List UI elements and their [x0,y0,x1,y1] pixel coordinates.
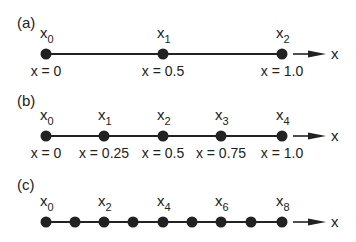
node-value: x = 0.5 [142,63,185,79]
grid-refinement-diagram: (a)xx0x = 0x1x = 0.5x2x = 1.0(b)xx0x = 0… [0,0,356,242]
node-dot-icon [70,217,81,228]
node-dot-icon [216,131,227,142]
node-label: x0 [40,192,54,213]
node-dot-icon [158,49,169,60]
arrow-head-icon [308,51,326,58]
grid-node [187,217,198,228]
node-value: x = 0 [31,63,62,79]
node-value: x = 1.0 [261,145,304,161]
panel-label: (a) [17,14,35,31]
node-dot-icon [187,217,198,228]
grid-node: x1x = 0.5 [142,24,185,79]
node-value: x = 0.5 [142,145,185,161]
panel-label: (c) [17,176,35,193]
grid-node: x2x = 0.5 [142,106,185,161]
node-value: x = 0 [31,145,62,161]
node-label: x2 [157,106,171,127]
axis-label: x [331,127,339,144]
node-dot-icon [158,131,169,142]
axis-label: x [331,45,339,62]
node-dot-icon [128,217,139,228]
arrow-head-icon [308,219,326,226]
node-dot-icon [41,49,52,60]
node-label: x0 [40,24,54,45]
panel-c: (c)xx0x2x4x6x8 [17,176,339,230]
node-dot-icon [99,217,110,228]
grid-node: x3x = 0.75 [196,106,246,161]
arrow-head-icon [308,133,326,140]
node-label: x1 [98,106,112,127]
grid-node: x0x = 0 [31,24,62,79]
node-value: x = 1.0 [261,63,304,79]
node-label: x8 [276,192,290,213]
panel-label: (b) [17,92,35,109]
grid-node: x1x = 0.25 [79,106,129,161]
node-dot-icon [41,131,52,142]
node-dot-icon [277,49,288,60]
grid-node: x8 [276,192,290,228]
node-label: x4 [276,106,290,127]
grid-node [246,217,257,228]
node-label: x4 [157,192,171,213]
node-dot-icon [246,217,257,228]
node-dot-icon [216,217,227,228]
node-value: x = 0.25 [79,145,129,161]
panel-b: (b)xx0x = 0x1x = 0.25x2x = 0.5x3x = 0.75… [17,92,339,161]
grid-node: x2x = 1.0 [261,24,304,79]
grid-node [128,217,139,228]
panel-a: (a)xx0x = 0x1x = 0.5x2x = 1.0 [17,14,339,79]
node-dot-icon [99,131,110,142]
grid-node [70,217,81,228]
grid-node: x0x = 0 [31,106,62,161]
node-label: x3 [215,106,229,127]
node-dot-icon [158,217,169,228]
node-dot-icon [277,131,288,142]
node-label: x6 [215,192,229,213]
node-label: x2 [98,192,112,213]
grid-node: x4x = 1.0 [261,106,304,161]
node-dot-icon [277,217,288,228]
node-value: x = 0.75 [196,145,246,161]
node-label: x1 [157,24,171,45]
node-label: x2 [276,24,290,45]
axis-label: x [331,213,339,230]
node-label: x0 [40,106,54,127]
node-dot-icon [41,217,52,228]
